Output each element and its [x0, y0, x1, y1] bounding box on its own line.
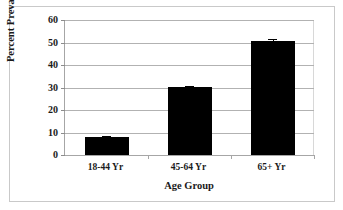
y-axis-tick: [61, 65, 65, 66]
error-bar-cap-upper: [185, 86, 194, 87]
y-axis-tick-label: 50: [48, 38, 58, 48]
y-axis-tick-label: 10: [48, 128, 58, 138]
bar: [85, 137, 129, 155]
y-axis-tick-label: 60: [48, 15, 58, 25]
y-axis-tick-label: 20: [48, 105, 58, 115]
x-axis-tick: [148, 155, 149, 159]
y-axis-tick: [61, 43, 65, 44]
x-axis-category-label: 45-64 Yr: [171, 163, 206, 173]
y-axis-title: Percent Prevalence: [6, 0, 17, 83]
bar: [168, 87, 212, 155]
bar: [251, 41, 295, 155]
x-axis-title: Age Group: [64, 181, 314, 192]
y-axis-tick: [61, 155, 65, 156]
gridline: [65, 155, 314, 156]
y-axis-tick: [61, 20, 65, 21]
y-axis-tick-label: 40: [48, 60, 58, 70]
error-bar-cap-lower: [102, 139, 111, 140]
y-axis-tick-label: 0: [53, 150, 58, 160]
gridline: [65, 20, 314, 21]
y-axis-tick: [61, 133, 65, 134]
error-bar-cap-lower: [268, 42, 277, 43]
x-axis-category-label: 18-44 Yr: [88, 163, 123, 173]
error-bar-cap-upper: [268, 39, 277, 40]
y-axis-tick: [61, 88, 65, 89]
plot-area: 0102030405060: [64, 20, 314, 155]
figure: 0102030405060 Percent Prevalence Age Gro…: [0, 0, 343, 210]
x-axis-category-label: 65+ Yr: [257, 163, 285, 173]
x-axis-tick: [231, 155, 232, 159]
error-bar-cap-lower: [185, 88, 194, 89]
y-axis-tick-label: 30: [48, 83, 58, 93]
y-axis-tick: [61, 110, 65, 111]
x-axis-tick: [314, 155, 315, 159]
error-bar-cap-upper: [102, 136, 111, 137]
